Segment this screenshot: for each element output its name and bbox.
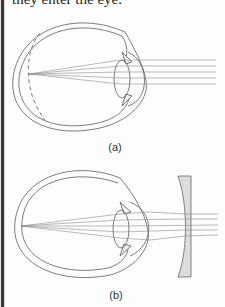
eye-diagram-b xyxy=(0,165,225,295)
body-text: they enter the eye. xyxy=(12,0,122,8)
figure-label-a: (a) xyxy=(100,141,130,153)
concave-lens xyxy=(178,176,191,277)
eye-diagram-a xyxy=(0,18,225,158)
figure-label-b: (b) xyxy=(101,289,131,301)
